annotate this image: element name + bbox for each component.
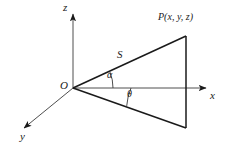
y-axis-line [24, 88, 73, 128]
z-axis-label: z [63, 2, 67, 13]
angle-alpha-label: α [107, 70, 112, 80]
angle-theta-label: θ [127, 89, 132, 99]
figure-canvas [0, 0, 227, 152]
geometry-figure: z x y O S P(x, y, z) α θ [0, 0, 227, 152]
y-axis-label: y [20, 131, 25, 142]
segment-s-label: S [117, 49, 123, 60]
origin-label: O [60, 80, 68, 91]
point-p-label: P(x, y, z) [158, 12, 193, 22]
x-axis-label: x [210, 90, 215, 101]
segment-s-upper-ray [73, 36, 186, 88]
